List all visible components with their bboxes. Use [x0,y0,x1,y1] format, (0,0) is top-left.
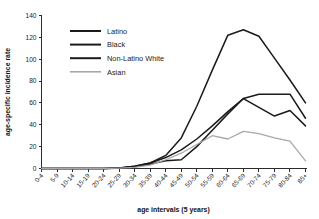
x-tick-label: 25-29 [106,172,123,189]
x-tick-label: 85+ [296,172,309,185]
x-tick-label: 30-34 [121,172,138,189]
y-tick-label: 60 [29,99,37,106]
x-tick-label: 10-14 [59,172,76,189]
x-axis-title: age intervals (5 years) [137,206,209,214]
series-line-non-latino-white [42,30,306,169]
x-tick-label: 65-69 [230,172,247,189]
x-tick-label: 60-64 [215,172,232,189]
x-tick-label: 15-19 [75,172,92,189]
legend-label-asian: Asian [107,68,126,77]
cropped-title-text [0,0,319,1]
x-axis: 0-45-910-1415-1920-2425-2930-3435-3940-4… [33,169,309,189]
x-tick-label: 75-79 [261,172,278,189]
chart-canvas: 020406080100120140 0-45-910-1415-1920-24… [0,0,319,219]
legend-label-non-latino-white: Non-Latino White [107,54,164,63]
x-tick-label: 20-24 [90,172,107,189]
x-tick-label: 70-74 [246,172,263,189]
x-tick-label: 0-4 [33,172,45,184]
x-tick-label: 45-49 [168,172,185,189]
y-tick-label: 80 [29,77,37,84]
y-tick-label: 20 [29,143,37,150]
y-tick-label: 120 [25,34,36,41]
x-tick-label: 55-59 [199,172,216,189]
x-tick-label: 80-84 [277,172,294,189]
legend-label-latino: Latino [107,27,127,36]
chart-figure: 020406080100120140 0-45-910-1415-1920-24… [0,0,319,219]
x-tick-label: 35-39 [137,172,154,189]
legend-label-black: Black [107,40,125,49]
y-tick-label: 0 [33,165,37,172]
series-lines [42,30,306,169]
y-axis-title: age-specific incidence rate [4,48,12,136]
x-tick-label: 50-54 [183,172,200,189]
chart-legend: LatinoBlackNon-Latino WhiteAsian [70,27,164,77]
series-line-black [42,99,306,169]
x-tick-label: 5-9 [49,172,61,184]
y-tick-label: 40 [29,121,37,128]
series-line-asian [42,131,306,168]
y-tick-label: 100 [25,56,36,63]
y-axis: 020406080100120140 [25,12,41,172]
series-line-latino [42,94,306,168]
x-tick-label: 40-44 [152,172,169,189]
y-tick-label: 140 [25,12,36,19]
